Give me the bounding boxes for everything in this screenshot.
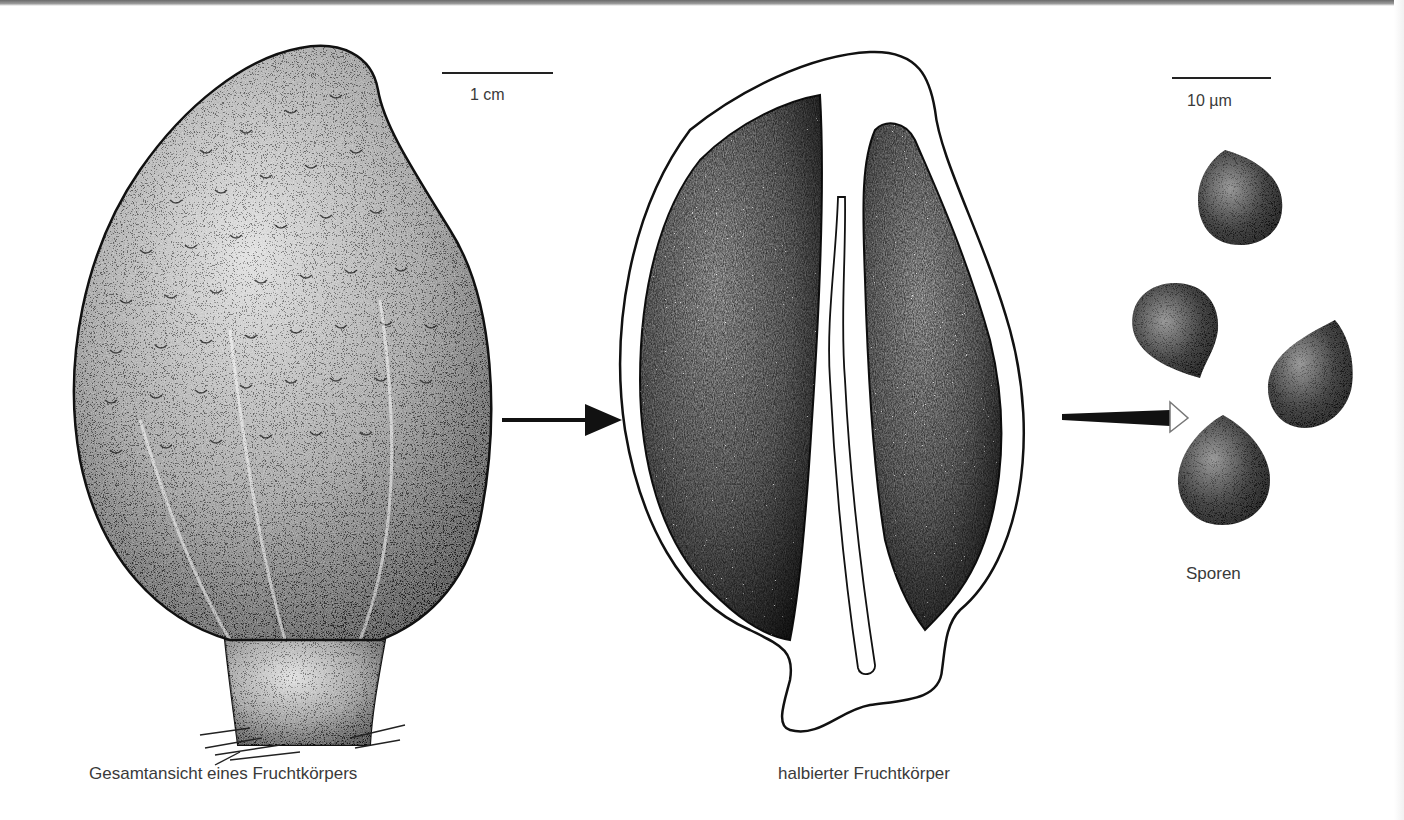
arrow-halved-to-spores bbox=[1062, 402, 1188, 432]
spore bbox=[1132, 283, 1218, 378]
spores-drawing bbox=[1132, 150, 1352, 525]
spore bbox=[1178, 415, 1270, 525]
halved-fruiting-body-drawing bbox=[620, 52, 1024, 732]
caption-whole-fruiting-body: Gesamtansicht eines Fruchtkörpers bbox=[89, 764, 357, 784]
caption-spores: Sporen bbox=[1186, 564, 1241, 584]
spore bbox=[1268, 320, 1353, 428]
spore bbox=[1198, 150, 1282, 245]
scale-label-10um: 10 µm bbox=[1187, 92, 1232, 110]
arrow-whole-to-halved bbox=[502, 404, 622, 436]
illustration-canvas bbox=[0, 0, 1404, 820]
whole-fruiting-body-drawing bbox=[60, 40, 510, 765]
scale-label-1cm: 1 cm bbox=[470, 86, 505, 104]
caption-halved-fruiting-body: halbierter Fruchtkörper bbox=[778, 764, 950, 784]
